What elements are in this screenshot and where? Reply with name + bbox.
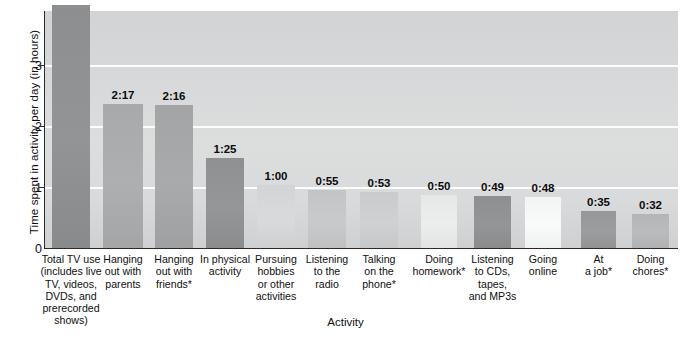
bar-value-label-4: 1:25	[203, 143, 247, 155]
x-category-label-10: Goingonline	[512, 253, 574, 278]
x-category-line: online	[512, 265, 574, 277]
x-category-line: phone*	[348, 278, 410, 290]
bar-3[interactable]	[155, 105, 193, 248]
x-category-line: friends*	[143, 278, 205, 290]
bar-value-label-7: 0:53	[357, 177, 401, 189]
bar-12[interactable]	[632, 214, 669, 248]
y-tick-label-2: 2	[22, 120, 42, 134]
x-category-label-7: Talkingon thephone*	[348, 253, 410, 290]
bar-2[interactable]	[103, 104, 143, 248]
bar-value-label-2: 2:17	[101, 89, 145, 101]
bar-value-label-9: 0:49	[471, 181, 515, 193]
x-category-line: prerecorded	[28, 302, 114, 314]
bar-10[interactable]	[525, 197, 561, 248]
x-category-line: At	[570, 253, 628, 265]
x-category-line: Going	[512, 253, 574, 265]
x-category-label-12: Doingchores*	[622, 253, 680, 278]
bar-chart: Time spent in activity per day (in hours…	[0, 0, 691, 342]
x-category-line: DVDs, and	[28, 290, 114, 302]
bar-11[interactable]	[581, 211, 616, 248]
x-category-line: Doing	[622, 253, 680, 265]
bar-8[interactable]	[421, 195, 457, 248]
x-axis-line	[44, 248, 678, 249]
bar-value-label-12: 0:32	[629, 199, 673, 211]
x-category-line: tapes,	[460, 278, 526, 290]
y-tick-label-3: 3	[22, 59, 42, 73]
bar-7[interactable]	[360, 192, 398, 248]
bar-value-label-3: 2:16	[152, 90, 196, 102]
gridline-3	[45, 65, 678, 67]
x-category-line: a job*	[570, 265, 628, 277]
y-tick-label-1: 1	[22, 181, 42, 195]
plot-area	[45, 11, 678, 248]
x-category-line: on the	[348, 265, 410, 277]
bar-value-label-8: 0:50	[417, 180, 461, 192]
bar-value-label-1: 3:51	[49, 0, 93, 2]
x-category-line: shows)	[28, 314, 114, 326]
bar-6[interactable]	[308, 190, 346, 248]
bar-9[interactable]	[474, 196, 511, 248]
x-category-line: chores*	[622, 265, 680, 277]
bar-value-label-11: 0:35	[577, 196, 621, 208]
x-category-line: Talking	[348, 253, 410, 265]
bar-value-label-6: 0:55	[305, 175, 349, 187]
bar-1[interactable]	[52, 5, 90, 248]
bar-4[interactable]	[206, 158, 244, 248]
x-category-label-11: Ata job*	[570, 253, 628, 278]
x-category-line: and MP3s	[460, 290, 526, 302]
x-category-line: activities	[245, 290, 307, 302]
bar-value-label-10: 0:48	[521, 182, 565, 194]
bar-5[interactable]	[257, 185, 295, 248]
bar-value-label-5: 1:00	[254, 170, 298, 182]
